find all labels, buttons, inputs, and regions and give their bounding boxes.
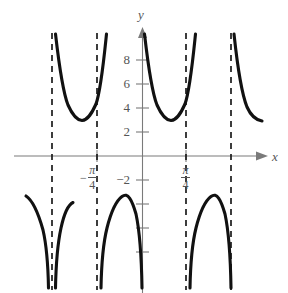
graph-canvas [0,0,288,293]
branch-upper-center [145,34,196,121]
secant-curve [26,34,262,288]
x-tick-label-neg-pi-over-4: − π 4 [80,164,97,191]
fraction-stack-pos: π 4 [181,164,190,191]
x-tick-pos-numerator: π [181,164,189,176]
x-tick-label-pos-pi-over-4: π 4 [180,164,190,191]
branch-upper-left [56,34,107,121]
x-tick-neg-numerator: π [88,164,96,176]
branch-lower-right [190,195,231,288]
branch-lower-center [101,195,142,288]
branch-upper-right-partial [234,34,262,121]
y-tick-label-neg2: −2 [102,173,130,186]
x-tick-neg-sign: − [80,172,88,184]
y-tick-label-8: 8 [108,53,130,66]
y-tick-label-4: 4 [108,101,130,114]
secant-graph-figure: 8 6 4 2 −2 − π 4 π 4 y x [0,0,288,293]
branch-lower-left-partial [26,196,49,288]
fraction-stack-neg: π 4 [88,164,97,191]
x-tick-neg-denominator: 4 [88,179,96,191]
y-tick-label-2: 2 [108,125,130,138]
y-tick-label-6: 6 [108,77,130,90]
x-tick-pos-denominator: 4 [182,179,190,191]
branch-lower-left [56,203,74,289]
y-axis-label: y [138,8,144,21]
x-axis-label: x [272,150,278,163]
